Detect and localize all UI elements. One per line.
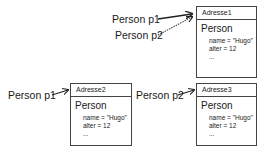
field-alter: alter = 12 — [209, 122, 256, 130]
field-alter: alter = 12 — [209, 45, 256, 53]
address-header: Adresse3 — [197, 84, 256, 97]
ref-label-p1-top: Person p1 — [112, 13, 160, 25]
field-list: name = "Hugo" alter = 12 ... — [197, 34, 256, 61]
ref-label-p2-top: Person p2 — [115, 29, 163, 41]
address-header: Adresse1 — [197, 7, 256, 20]
field-list: name = "Hugo" alter = 12 ... — [197, 111, 256, 138]
field-name: name = "Hugo" — [209, 114, 256, 122]
field-ellipsis: ... — [83, 130, 131, 138]
object-box-adresse3: Adresse3 Person name = "Hugo" alter = 12… — [196, 83, 257, 146]
field-ellipsis: ... — [209, 130, 256, 138]
arrow-p1-to-adresse1 — [158, 14, 192, 19]
field-name: name = "Hugo" — [83, 114, 131, 122]
class-name: Person — [197, 97, 256, 111]
field-alter: alter = 12 — [83, 122, 131, 130]
object-box-adresse2: Adresse2 Person name = "Hugo" alter = 12… — [70, 83, 132, 146]
field-name: name = "Hugo" — [209, 37, 256, 45]
ref-label-p1-bottom: Person p1 — [8, 89, 56, 101]
class-name: Person — [197, 20, 256, 34]
field-list: name = "Hugo" alter = 12 ... — [71, 111, 131, 138]
field-ellipsis: ... — [209, 53, 256, 61]
class-name: Person — [71, 97, 131, 111]
ref-label-p2-bottom: Person p2 — [136, 89, 184, 101]
address-header: Adresse2 — [71, 84, 131, 97]
object-box-adresse1: Adresse1 Person name = "Hugo" alter = 12… — [196, 6, 257, 78]
arrow-p2-to-adresse1 — [158, 17, 192, 35]
